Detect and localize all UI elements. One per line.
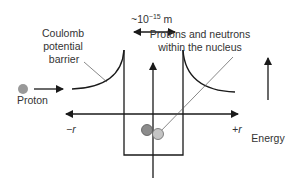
nucleus-label-line2: within the nucleus [157, 41, 241, 53]
barrier-label-line3: barrier [49, 53, 80, 65]
nucleon-dark-icon [142, 125, 153, 136]
nucleus-label-line1: Protons and neutrons [150, 28, 250, 40]
coulomb-barrier-left-curve [72, 50, 124, 89]
neg-r-label: −r [66, 123, 76, 135]
barrier-label-line2: potential [43, 40, 83, 52]
pos-r-label: +r [232, 123, 242, 135]
nucleon-light-icon [153, 129, 164, 140]
barrier-label-line1: Coulomb [42, 27, 84, 39]
barrier-leader-line [84, 62, 107, 82]
energy-label: Energy [251, 132, 285, 144]
coulomb-barrier-diagram: Coulomb potential barrier ~10−15 m Proto… [0, 0, 307, 185]
proton-label: Proton [17, 94, 48, 106]
coulomb-barrier-right-curve [183, 50, 235, 92]
proton-icon [18, 84, 28, 94]
nucleus-leader-line [158, 57, 233, 134]
scale-label: ~10−15 m [131, 13, 173, 25]
